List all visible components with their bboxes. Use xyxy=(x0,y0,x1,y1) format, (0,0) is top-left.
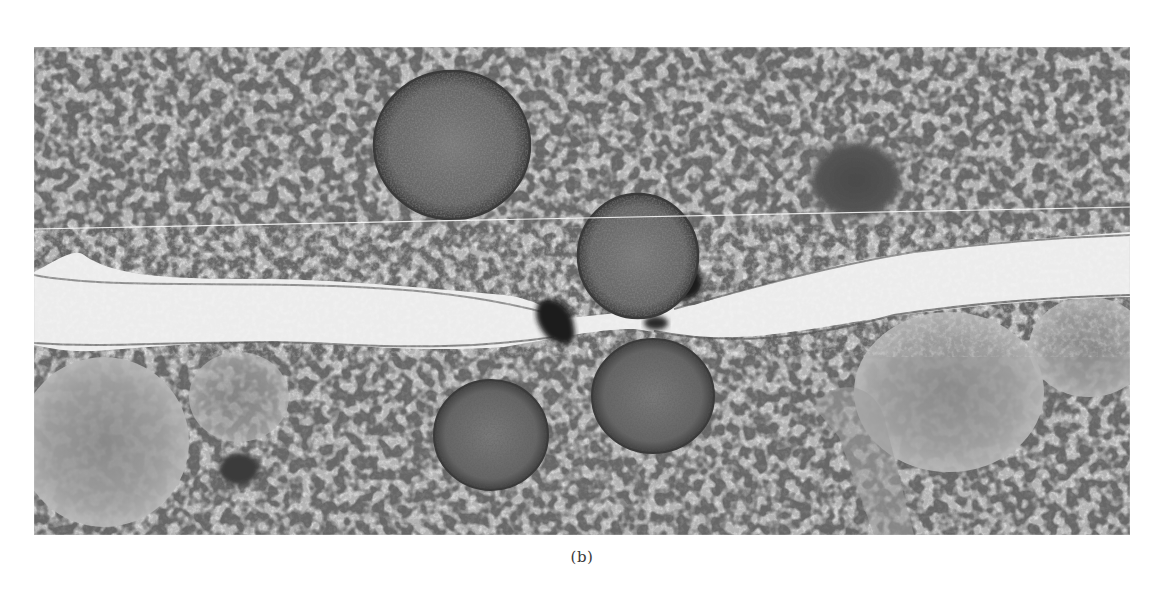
micrograph-image xyxy=(34,47,1130,535)
vesicle-lower-left xyxy=(434,380,548,490)
panel-label: (b) xyxy=(0,548,1164,566)
vesicle-at-junction xyxy=(578,194,698,318)
micrograph-figure xyxy=(34,47,1130,535)
dark-granule-top-right xyxy=(804,136,908,224)
small-dark-granule xyxy=(219,453,259,485)
large-round-vesicle-top xyxy=(374,71,530,219)
vesicle-lower-center xyxy=(592,339,714,453)
